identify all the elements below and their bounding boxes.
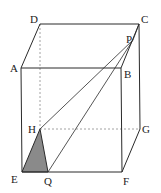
diagram-canvas: D C P A B H G E Q F [0, 0, 161, 193]
label-E: E [11, 173, 18, 185]
label-C: C [141, 13, 148, 25]
edge-CG [139, 24, 140, 129]
segment-PQ [48, 40, 133, 172]
label-B: B [124, 68, 131, 80]
segment-PC [133, 24, 139, 40]
edge-DA [21, 24, 40, 68]
label-D: D [30, 13, 38, 25]
edge-FG [122, 129, 140, 172]
label-F: F [123, 175, 129, 187]
label-A: A [10, 62, 18, 74]
segment-PH [40, 40, 133, 129]
edge-BF [121, 68, 122, 172]
prism-diagram: D C P A B H G E Q F [0, 0, 161, 193]
shaded-triangle-EHQ [22, 129, 48, 172]
label-Q: Q [44, 175, 52, 187]
label-P: P [126, 33, 132, 45]
label-H: H [28, 123, 36, 135]
edge-AE [21, 68, 22, 172]
label-G: G [142, 123, 150, 135]
